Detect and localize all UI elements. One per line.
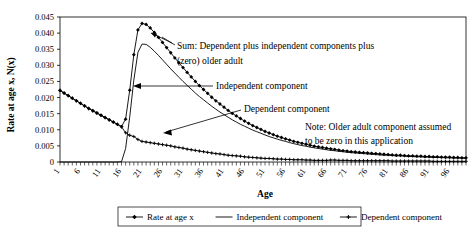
sum-annotation-line1: Sum: Dependent plus independent componen… [177,41,374,51]
y-tick-label: 0.005 [35,141,54,151]
y-tick-label: 0.015 [35,109,54,119]
dependent-annotation-text: Dependent component [244,104,330,114]
figure-container: Rate at age x, N(x) 00.0050.0100.0150.02… [0,0,473,236]
note-annotation-line1: Note: Older adult component assumed [305,122,451,132]
y-tick-label: 0.040 [35,28,54,38]
sum-annotation-line2: (zero) older adult [177,56,243,67]
note-annotation-line2: to be zero in this application [305,136,413,146]
y-tick-label: 0.030 [35,60,54,70]
legend-label-dependent-component[interactable]: Dependent component [361,212,443,222]
y-tick-label: 0.020 [35,93,54,103]
legend-label-rate-at-age-x[interactable]: Rate at age x [147,212,194,222]
independent-annotation-text: Independent component [216,81,308,91]
chart-background [0,0,473,236]
y-tick-label: 0.010 [35,125,54,135]
y-tick-label: 0 [50,157,54,167]
y-tick-label: 0.025 [35,76,54,86]
y-tick-label: 0.035 [35,44,54,54]
y-tick-label: 0.045 [35,12,54,22]
y-axis-title: Rate at age x, N(x) [6,57,17,132]
x-axis-title: Age [257,189,273,199]
legend-label-independent-component[interactable]: Independent component [237,212,324,222]
rate-at-age-chart: Rate at age x, N(x) 00.0050.0100.0150.02… [0,0,473,236]
